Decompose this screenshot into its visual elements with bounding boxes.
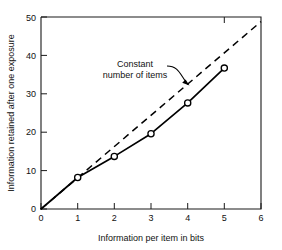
y-tick-label-0: 0: [31, 204, 36, 214]
x-tick-label-4: 4: [185, 213, 190, 223]
y-tick-label-20: 20: [26, 127, 36, 137]
x-tick-label-6: 6: [258, 213, 263, 223]
annotation-arrow-curve: [167, 66, 186, 82]
x-tick-label-5: 5: [222, 213, 227, 223]
annotation-line-2: number of items: [103, 70, 168, 80]
annotation-line-1: Constant: [117, 59, 154, 69]
x-tick-labels: 0 1 2 3 4 5 6: [38, 213, 263, 223]
line-chart-svg: 0 1 2 3 4 5 6 0 10 20 30 40 50: [0, 0, 282, 250]
x-tick-label-3: 3: [148, 213, 153, 223]
y-tick-label-40: 40: [26, 51, 36, 61]
data-point-4: [185, 100, 191, 106]
y-tick-label-50: 50: [26, 13, 36, 23]
y-axis-ticks: [41, 17, 47, 209]
data-point-3: [148, 131, 154, 137]
x-tick-label-2: 2: [112, 213, 117, 223]
x-tick-label-0: 0: [38, 213, 43, 223]
annotation-constant-number-of-items: Constant number of items: [103, 59, 190, 86]
data-series-line: [41, 68, 224, 209]
y-axis-title: Information retained after one exposure: [6, 34, 16, 192]
data-point-1: [75, 174, 81, 180]
chart-figure: 0 1 2 3 4 5 6 0 10 20 30 40 50: [0, 0, 282, 250]
data-point-5: [221, 65, 227, 71]
x-axis-ticks: [41, 203, 261, 209]
y-tick-labels: 0 10 20 30 40 50: [26, 13, 36, 215]
data-point-2: [111, 153, 117, 159]
x-tick-label-1: 1: [75, 213, 80, 223]
y-tick-label-10: 10: [26, 166, 36, 176]
x-axis-title: Information per item in bits: [98, 233, 205, 243]
data-point-markers: [75, 65, 228, 181]
y-tick-label-30: 30: [26, 89, 36, 99]
